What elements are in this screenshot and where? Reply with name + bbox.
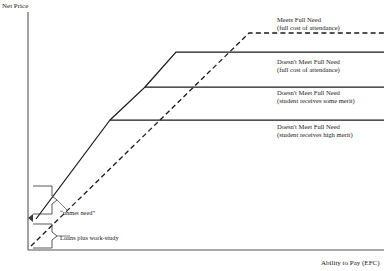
series-label-line2: (full cost of attendance): [277, 24, 340, 32]
chart-figure: Net Price Ability to Pay (EFC) Meets Ful…: [0, 0, 387, 271]
series-label-some-merit: Doesn't Meet Full Need (student receives…: [277, 89, 355, 105]
series-label-line1: Doesn't Meet Full Need: [277, 58, 340, 65]
series-label-line2: (full cost of attendance): [277, 66, 340, 74]
series-label-line2: (student receives high merit): [277, 131, 353, 139]
annotation-loans-work-study: Loans plus work-study: [60, 234, 119, 242]
annotation-unmet-need: “unmet need”: [60, 209, 95, 217]
series-label-high-merit: Doesn't Meet Full Need (student receives…: [277, 123, 353, 139]
series-label-line1: Doesn't Meet Full Need: [277, 89, 340, 96]
series-label-line1: Meets Full Need: [277, 16, 321, 23]
y-axis-title: Net Price: [2, 2, 28, 10]
series-label-no-merit: Doesn't Meet Full Need (full cost of att…: [277, 58, 340, 74]
x-axis-title: Ability to Pay (EFC): [321, 259, 380, 267]
series-label-meets-full-need: Meets Full Need (full cost of attendance…: [277, 16, 340, 32]
series-label-line1: Doesn't Meet Full Need: [277, 123, 340, 130]
series-label-line2: (student receives some merit): [277, 97, 355, 105]
